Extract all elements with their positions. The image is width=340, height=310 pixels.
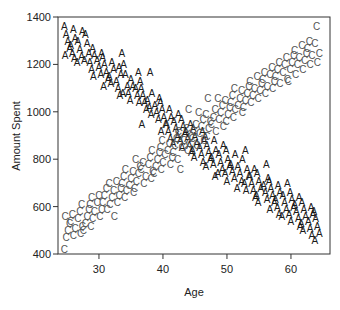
data-point: C xyxy=(214,93,221,104)
data-point: C xyxy=(195,107,202,118)
data-point: A xyxy=(311,235,318,246)
data-point: C xyxy=(291,45,298,56)
data-point: C xyxy=(176,128,183,139)
data-point: C xyxy=(246,76,253,87)
data-point: A xyxy=(90,71,97,82)
data-point: A xyxy=(147,67,154,78)
data-point: A xyxy=(224,176,231,187)
y-tick-label: 1400 xyxy=(27,11,51,23)
data-point: A xyxy=(139,119,146,130)
data-point: C xyxy=(314,57,321,68)
data-point: A xyxy=(255,197,262,208)
data-point: C xyxy=(311,38,318,49)
data-point: A xyxy=(119,48,126,59)
y-tick-label: 1200 xyxy=(27,58,51,70)
x-axis-title: Age xyxy=(184,286,204,298)
y-tick-label: 1000 xyxy=(27,106,51,118)
data-point: C xyxy=(185,104,192,115)
x-axis: 30405060 xyxy=(93,254,297,275)
x-tick-label: 50 xyxy=(221,263,233,275)
data-point: A xyxy=(127,95,134,106)
data-point: A xyxy=(74,57,81,68)
y-tick-label: 800 xyxy=(33,153,51,165)
data-point: A xyxy=(191,152,198,163)
data-point: A xyxy=(215,168,222,179)
y-axis: 400600800100012001400 xyxy=(27,11,58,260)
data-point: A xyxy=(263,159,270,170)
y-tick-label: 400 xyxy=(33,248,51,260)
data-point: C xyxy=(204,93,211,104)
x-tick-label: 60 xyxy=(285,263,297,275)
data-point: A xyxy=(300,225,307,236)
x-tick-label: 30 xyxy=(93,263,105,275)
y-tick-label: 600 xyxy=(33,201,51,213)
data-point: A xyxy=(279,211,286,222)
data-point: C xyxy=(316,48,323,59)
plot-points: AAAAAAAAAAAAAAAAAAAAAAAAAAAAAAAAAAAAAAAA… xyxy=(61,21,323,255)
data-point: C xyxy=(292,69,299,80)
data-point: A xyxy=(100,81,107,92)
data-point: C xyxy=(313,21,320,32)
data-point: A xyxy=(234,183,241,194)
data-point: C xyxy=(105,178,112,189)
data-point: C xyxy=(111,211,118,222)
data-point: A xyxy=(288,216,295,227)
data-point: A xyxy=(242,145,249,156)
data-point: C xyxy=(285,76,292,87)
scatter-chart: AAAAAAAAAAAAAAAAAAAAAAAAAAAAAAAAAAAAAAAA… xyxy=(0,0,340,310)
data-point: A xyxy=(62,50,69,61)
y-axis-title: Amount Spent xyxy=(10,101,22,171)
data-point: C xyxy=(307,59,314,70)
data-point: A xyxy=(267,204,274,215)
data-point: A xyxy=(203,161,210,172)
data-point: C xyxy=(177,164,184,175)
data-point: C xyxy=(78,199,85,210)
data-point: C xyxy=(299,64,306,75)
x-tick-label: 40 xyxy=(157,263,169,275)
